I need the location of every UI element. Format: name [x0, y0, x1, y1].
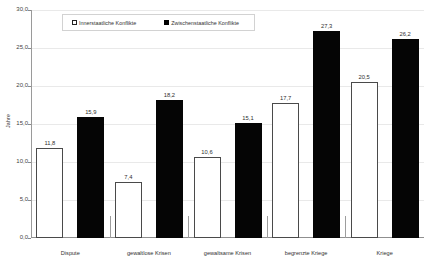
legend-item-zwischenstaatliche[interactable]: Zwischenstaatliche Konflikte [164, 20, 239, 26]
y-axis-tick-label: 10,0 [2, 158, 28, 164]
legend-label-innerstaatliche: Innerstaatliche Konflikte [79, 20, 136, 26]
y-axis-tick-label: 0,0 [2, 234, 28, 240]
category-label: gewaltlose Krisen [110, 250, 189, 256]
bar-group-layer: 11,815,97,418,210,615,117,727,320,526,2 [31, 10, 424, 238]
category-separator [267, 216, 268, 238]
y-axis-tick-label: 20,0 [2, 82, 28, 88]
category-separator [188, 216, 189, 238]
y-axis-tick-label: 15,0 [2, 120, 28, 126]
legend-label-zwischenstaatliche: Zwischenstaatliche Konflikte [171, 20, 239, 26]
bar-innerstaatliche[interactable] [194, 157, 221, 238]
category-separator [110, 216, 111, 238]
legend-swatch-solid-icon [164, 20, 169, 25]
bar-value-label: 7,4 [109, 174, 148, 180]
bar-innerstaatliche[interactable] [115, 182, 142, 238]
bar-value-label: 18,2 [150, 92, 189, 98]
bar-innerstaatliche[interactable] [36, 148, 63, 238]
bar-value-label: 15,1 [229, 115, 268, 121]
legend-item-innerstaatliche[interactable]: Innerstaatliche Konflikte [72, 20, 136, 26]
y-axis-tick-mark [28, 238, 31, 239]
bar-value-label: 26,2 [386, 31, 425, 37]
bar-chart: Jahre 0,05,010,015,020,025,030,0 11,815,… [0, 0, 432, 263]
category-label: Kriege [345, 250, 424, 256]
bar-zwischenstaatliche[interactable] [392, 39, 419, 238]
category-separator [345, 216, 346, 238]
legend: Innerstaatliche Konflikte Zwischenstaatl… [62, 14, 255, 31]
category-label: begrenzte Kriege [267, 250, 346, 256]
y-axis-tick-label: 5,0 [2, 196, 28, 202]
category-label: Dispute [31, 250, 110, 256]
bar-value-label: 10,6 [188, 149, 227, 155]
bar-zwischenstaatliche[interactable] [156, 100, 183, 238]
bar-value-label: 15,9 [71, 109, 110, 115]
category-label: gewaltsame Krisen [188, 250, 267, 256]
y-axis-tick-label: 25,0 [2, 44, 28, 50]
bar-value-label: 17,7 [266, 95, 305, 101]
bar-value-label: 27,3 [307, 23, 346, 29]
y-axis-tick-label: 30,0 [2, 6, 28, 12]
legend-swatch-open-icon [72, 20, 77, 25]
bar-innerstaatliche[interactable] [272, 103, 299, 238]
bar-zwischenstaatliche[interactable] [313, 31, 340, 238]
bar-zwischenstaatliche[interactable] [77, 117, 104, 238]
bar-zwischenstaatliche[interactable] [235, 123, 262, 238]
bar-value-label: 11,8 [30, 140, 69, 146]
bar-innerstaatliche[interactable] [351, 82, 378, 238]
bar-value-label: 20,5 [345, 74, 384, 80]
